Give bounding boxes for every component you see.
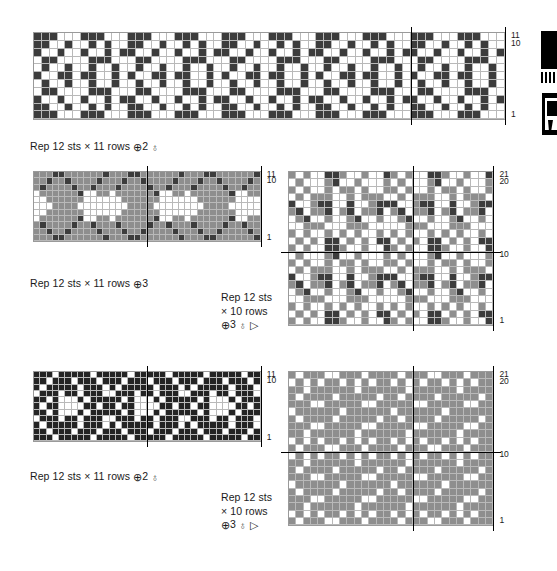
chart-cell xyxy=(391,430,398,437)
chart-cell xyxy=(442,216,449,223)
chart-cell xyxy=(362,496,369,503)
chart-cell xyxy=(413,267,420,274)
chart-cell xyxy=(465,57,473,65)
chart-cell xyxy=(406,445,413,452)
chart-cell xyxy=(333,194,340,201)
chart-cell xyxy=(435,223,442,230)
chart-cell xyxy=(391,467,398,474)
chart-cell xyxy=(406,311,413,318)
chart-cell xyxy=(58,80,66,88)
chart-cell xyxy=(486,416,493,423)
chart-cell xyxy=(442,245,449,252)
colorwork-grid-bottom-left[interactable] xyxy=(34,372,261,441)
colorwork-grid-top[interactable] xyxy=(34,33,505,119)
chart-cell xyxy=(471,496,478,503)
chart-cell xyxy=(369,416,376,423)
chart-cell xyxy=(434,41,442,49)
chart-cell xyxy=(362,438,369,445)
chart-cell xyxy=(167,104,175,112)
chart-cell xyxy=(395,96,403,104)
chart-cell xyxy=(442,80,450,88)
chart-cell xyxy=(481,80,489,88)
chart-cell xyxy=(398,223,405,230)
chart-cell xyxy=(420,274,427,281)
chart-cell xyxy=(426,49,434,57)
chart-cell xyxy=(486,187,493,194)
chart-cell xyxy=(369,503,376,510)
chart-cell xyxy=(377,467,384,474)
chart-cell xyxy=(214,57,222,65)
chart-cell xyxy=(471,387,478,394)
chart-cell xyxy=(371,104,379,112)
chart-cell xyxy=(363,72,371,80)
chart-cell xyxy=(112,96,120,104)
chart-cell xyxy=(277,72,285,80)
chart-cell xyxy=(347,452,354,459)
chart-cell xyxy=(318,518,325,525)
chart-cell xyxy=(340,111,348,119)
chart-cell xyxy=(293,88,301,96)
chart-cell xyxy=(465,49,473,57)
chart-cell xyxy=(420,423,427,430)
chart-cell xyxy=(471,179,478,186)
chart-cell xyxy=(413,372,420,379)
colorwork-grid-middle-left[interactable] xyxy=(34,172,261,241)
chart-cell xyxy=(450,503,457,510)
chart-cell xyxy=(420,172,427,179)
chart-cell xyxy=(471,201,478,208)
chart-cell xyxy=(435,387,442,394)
chart-cell xyxy=(377,230,384,237)
chart-cell xyxy=(311,187,318,194)
chart-cell xyxy=(269,96,277,104)
chart-cell xyxy=(464,387,471,394)
chart-cell xyxy=(333,452,340,459)
chart-cell xyxy=(333,252,340,259)
chart-cell xyxy=(296,260,303,267)
chart-cell xyxy=(435,489,442,496)
chart-cell xyxy=(450,430,457,437)
chart-cell xyxy=(435,445,442,452)
chart-cell xyxy=(379,41,387,49)
chart-cell xyxy=(486,179,493,186)
chart-cell xyxy=(377,245,384,252)
chart-cell xyxy=(324,111,332,119)
chart-cell xyxy=(481,88,489,96)
chart-cell xyxy=(347,496,354,503)
chart-cell xyxy=(442,318,449,325)
chart-cell xyxy=(289,481,296,488)
colorwork-grid-bottom-right[interactable] xyxy=(289,372,493,525)
chart-cell xyxy=(58,88,66,96)
chart-cell xyxy=(347,223,354,230)
chart-cell xyxy=(435,438,442,445)
chart-cell xyxy=(191,80,199,88)
chart-cell xyxy=(304,223,311,230)
chart-cell xyxy=(379,104,387,112)
chart-cell xyxy=(403,88,411,96)
chart-cell xyxy=(464,289,471,296)
chart-cell xyxy=(398,252,405,259)
chart-cell xyxy=(420,489,427,496)
chart-cell xyxy=(377,503,384,510)
chart-cell xyxy=(340,179,347,186)
chart-cell xyxy=(398,194,405,201)
chart-cell xyxy=(105,111,113,119)
chart-cell xyxy=(356,96,364,104)
chart-cell xyxy=(362,467,369,474)
chart-cell xyxy=(311,438,318,445)
colorwork-grid-middle-right[interactable] xyxy=(289,172,493,325)
chart-cell xyxy=(347,252,354,259)
chart-cell xyxy=(464,303,471,310)
chart-cell xyxy=(347,318,354,325)
chart-cell xyxy=(296,481,303,488)
row-number-label: 10 xyxy=(499,450,508,459)
chart-cell xyxy=(325,311,332,318)
chart-cell xyxy=(369,208,376,215)
chart-cell xyxy=(420,408,427,415)
chart-cell xyxy=(207,96,215,104)
chart-cell xyxy=(497,96,505,104)
chart-cell xyxy=(369,445,376,452)
chart-cell xyxy=(471,296,478,303)
chart-cell xyxy=(325,496,332,503)
chart-cell xyxy=(207,49,215,57)
chart-cell xyxy=(457,281,464,288)
